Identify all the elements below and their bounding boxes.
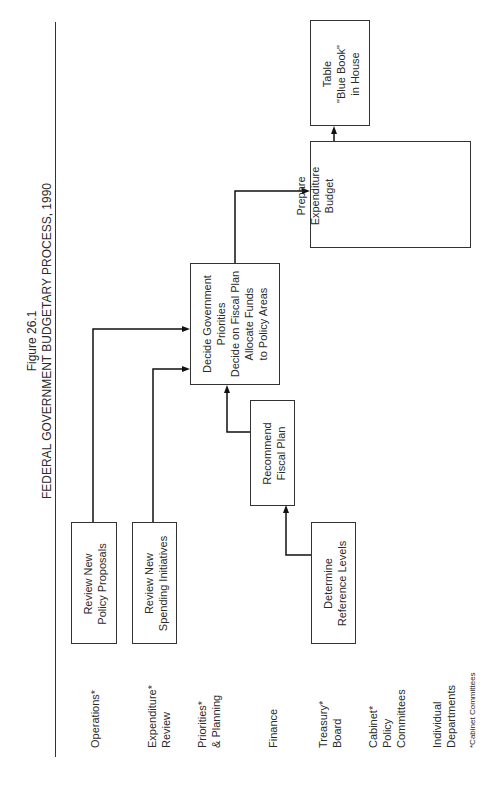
label-text: Operations*: [88, 690, 102, 748]
label-text: Review: [159, 685, 173, 748]
label-text: Board: [330, 701, 344, 748]
box-determine-reference-levels: Determine Reference Levels: [311, 522, 356, 644]
box-text: Decide Government: [200, 275, 214, 373]
box-text: Allocate Funds: [242, 288, 256, 361]
label-text: Finance: [266, 709, 280, 748]
box-text: Policy Proposals: [95, 543, 109, 624]
box-review-spending-initiatives: Review New Spending Initiatives: [132, 522, 177, 644]
row-label-priorities-planning: Priorities* & Planning: [195, 695, 223, 748]
label-text: Departments: [444, 685, 458, 748]
box-recommend-fiscal-plan: Recommend Fiscal Plan: [250, 400, 295, 506]
box-text: Priorities: [214, 303, 228, 346]
box-table-blue-book: Table "Blue Book" in House: [310, 20, 370, 126]
box-decide-government-priorities: Decide Government Priorities Decide on F…: [190, 263, 280, 385]
box-text: Expenditure: [308, 143, 322, 250]
footnote-text: *Cabinet Committees: [468, 672, 478, 748]
footnote: *Cabinet Committees: [468, 672, 478, 748]
box-text: in House: [348, 52, 362, 95]
label-text: Policy: [380, 689, 394, 748]
row-label-finance: Finance: [266, 709, 280, 748]
box-text: "Blue Book": [334, 45, 348, 103]
label-text: & Planning: [209, 695, 223, 748]
label-text: Cabinet*: [366, 689, 380, 748]
box-text: Fiscal Plan: [273, 427, 287, 481]
box-text: Review New: [141, 553, 155, 614]
row-label-cabinet-policy-committees: Cabinet* Policy Committees: [366, 689, 408, 748]
box-text: Reference Levels: [334, 541, 348, 627]
box-text: Recommend: [259, 422, 273, 484]
box-text: Determine: [320, 558, 334, 609]
row-label-treasury-board: Treasury* Board: [316, 701, 344, 748]
box-text: Decide on Fiscal Plan: [228, 271, 242, 377]
box-text: Budget: [322, 143, 336, 250]
label-text: Committees: [394, 689, 408, 748]
box-prepare-expenditure-budget: Prepare Expenditure Budget: [310, 141, 471, 248]
label-text: Priorities*: [195, 695, 209, 748]
box-review-policy-proposals: Review New Policy Proposals: [71, 522, 117, 644]
label-text: Treasury*: [316, 701, 330, 748]
box-text: Table: [320, 61, 334, 87]
row-label-operations: Operations*: [88, 690, 102, 748]
box-text: Review New: [81, 553, 95, 614]
box-text: Prepare: [294, 143, 308, 250]
row-label-individual-departments: Individual Departments: [430, 685, 458, 748]
row-label-expenditure-review: Expenditure* Review: [145, 685, 173, 748]
box-text: to Policy Areas: [256, 288, 270, 361]
box-text: Spending Initiatives: [155, 536, 169, 631]
connector-lines: [0, 0, 495, 789]
label-text: Individual: [430, 685, 444, 748]
label-text: Expenditure*: [145, 685, 159, 748]
